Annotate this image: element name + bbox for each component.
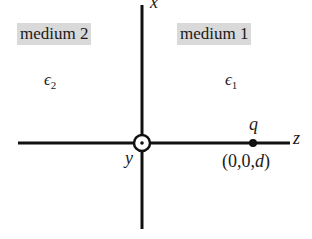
epsilon-1-label: ϵ1 <box>225 70 237 91</box>
medium-2-label: medium 2 <box>17 23 91 45</box>
charge-q-label: q <box>249 114 258 135</box>
medium-1-label: medium 1 <box>177 23 251 45</box>
charge-coordinate-label: (0,0,d) <box>222 151 270 172</box>
point-charge-icon <box>249 139 257 147</box>
y-axis-label: y <box>125 148 133 169</box>
epsilon-2-label: ϵ2 <box>44 70 56 91</box>
y-axis-dot-icon <box>140 141 144 145</box>
z-axis-label: z <box>293 128 300 149</box>
diagram-canvas: x y z medium 2 medium 1 ϵ2 ϵ1 q (0,0,d) <box>0 0 312 239</box>
x-axis-label: x <box>150 0 158 13</box>
